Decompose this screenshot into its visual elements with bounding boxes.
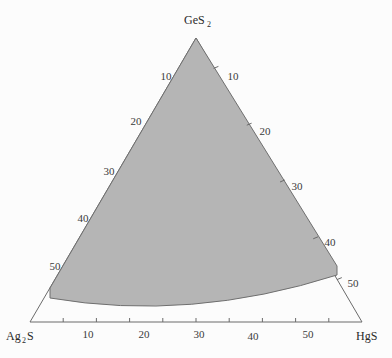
bottom-tick-label-30: 30 xyxy=(194,328,206,340)
bottom-axis-tick-labels: 10 20 30 40 50 xyxy=(83,328,315,342)
vertex-label-ag2s: Ag 2 S xyxy=(6,329,34,345)
vertex-label-ges2-subscript: 2 xyxy=(207,20,211,29)
vertex-label-ag2s-tail: S xyxy=(27,329,34,343)
left-tick-label-30: 30 xyxy=(104,165,116,177)
bottom-tick-label-20: 20 xyxy=(139,328,151,340)
left-tick-label-50: 50 xyxy=(50,260,62,272)
ternary-phase-diagram: 10 20 30 40 50 10 20 30 40 50 10 20 30 xyxy=(0,0,392,358)
shaded-phase-region xyxy=(50,38,337,306)
vertex-label-ag2s-main: Ag xyxy=(6,329,21,343)
vertex-label-ges2-main: GeS xyxy=(184,13,205,27)
left-tick-label-10: 10 xyxy=(161,70,173,82)
ternary-diagram-page: 10 20 30 40 50 10 20 30 40 50 10 20 30 xyxy=(0,0,392,358)
right-tick-label-20: 20 xyxy=(260,125,272,137)
phase-field-boundary xyxy=(50,38,337,306)
vertex-label-ges2: GeS 2 xyxy=(184,13,211,29)
right-tick-50 xyxy=(337,278,342,280)
vertex-label-hgs-main: HgS xyxy=(356,329,377,343)
left-tick-label-40: 40 xyxy=(78,212,90,224)
bottom-axis-ticks xyxy=(63,318,329,322)
bottom-tick-label-40: 40 xyxy=(248,330,260,342)
left-tick-label-20: 20 xyxy=(131,115,143,127)
right-tick-label-40: 40 xyxy=(325,236,337,248)
right-tick-label-50: 50 xyxy=(348,277,360,289)
right-tick-label-10: 10 xyxy=(228,70,240,82)
vertex-label-ag2s-subscript: 2 xyxy=(22,336,26,345)
bottom-tick-label-50: 50 xyxy=(303,328,315,340)
bottom-tick-label-10: 10 xyxy=(83,328,95,340)
vertex-label-hgs: HgS xyxy=(356,329,377,343)
right-tick-label-30: 30 xyxy=(292,180,304,192)
